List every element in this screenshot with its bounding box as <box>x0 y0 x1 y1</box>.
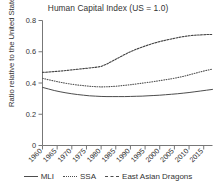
x-tick-label: 1970 <box>56 147 74 165</box>
legend-item-east-asian-dragons[interactable]: East Asian Dragons <box>105 172 192 181</box>
axes <box>43 21 213 146</box>
y-tick-label: 0.4 <box>26 79 36 88</box>
x-tick-label: 1995 <box>129 147 147 165</box>
x-tick-label: 2010 <box>173 147 191 165</box>
series-line-east-asian-dragons <box>43 34 213 72</box>
line-solid-swatch <box>24 173 38 180</box>
legend-label-ssa: SSA <box>80 172 96 181</box>
legend-label-mli: MLI <box>41 172 54 181</box>
plot-area: 00.20.40.60.8 19601965197019751980198519… <box>0 0 216 193</box>
y-tick-marks: 00.20.40.60.8 <box>26 16 43 150</box>
x-tick-label: 2005 <box>158 147 176 165</box>
x-tick-label: 1980 <box>85 147 103 165</box>
x-tick-label: 1965 <box>41 147 59 165</box>
series-line-ssa <box>43 69 213 87</box>
data-series-group <box>43 34 213 96</box>
y-tick-label: 0.2 <box>26 110 36 119</box>
x-tick-label: 2000 <box>143 147 161 165</box>
y-tick-label: 0.6 <box>26 47 36 56</box>
chart-legend: MLI SSA East Asian Dragons <box>0 172 216 181</box>
x-tick-label: 2015 <box>187 147 205 165</box>
x-tick-marks: 1960196519701975198019851990199520002005… <box>26 146 205 165</box>
x-tick-label: 1960 <box>26 147 44 165</box>
legend-item-mli[interactable]: MLI <box>24 172 54 181</box>
y-tick-label: 0.8 <box>26 16 36 25</box>
x-tick-label: 1975 <box>70 147 88 165</box>
series-line-mli <box>43 87 213 96</box>
chart-figure: Human Capital Index (US = 1.0) Ratio rel… <box>0 0 216 193</box>
x-tick-label: 1990 <box>114 147 132 165</box>
line-dashed-swatch <box>105 173 119 180</box>
line-dotted-swatch <box>63 173 77 180</box>
x-tick-label: 1985 <box>100 147 118 165</box>
legend-label-east-asian-dragons: East Asian Dragons <box>122 172 192 181</box>
legend-item-ssa[interactable]: SSA <box>63 172 96 181</box>
